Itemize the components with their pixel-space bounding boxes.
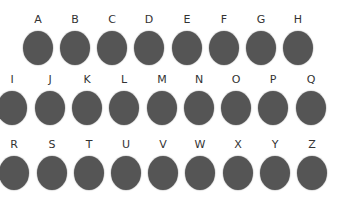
letter-dot-i[interactable]: I — [0, 74, 28, 134]
letter-dot-d[interactable]: D — [133, 14, 165, 74]
circle-icon[interactable] — [246, 31, 276, 65]
circle-icon[interactable] — [221, 91, 251, 125]
circle-icon[interactable] — [148, 156, 178, 190]
letter-dot-n[interactable]: N — [183, 74, 215, 134]
letter-label: H — [294, 14, 302, 26]
circle-icon[interactable] — [0, 156, 29, 190]
circle-icon[interactable] — [258, 91, 288, 125]
letter-label: Y — [272, 139, 279, 151]
letter-label: T — [86, 139, 93, 151]
letter-dot-j[interactable]: J — [34, 74, 66, 134]
letter-dot-q[interactable]: Q — [295, 74, 327, 134]
letter-dot-t[interactable]: T — [73, 139, 105, 199]
circle-icon[interactable] — [37, 156, 67, 190]
letter-dot-o[interactable]: O — [220, 74, 252, 134]
letter-label: I — [10, 74, 13, 86]
circle-icon[interactable] — [35, 91, 65, 125]
letter-label: M — [157, 74, 167, 86]
letter-dot-k[interactable]: K — [71, 74, 103, 134]
letter-label: E — [184, 14, 191, 26]
letter-label: J — [48, 74, 51, 86]
letter-dot-m[interactable]: M — [146, 74, 178, 134]
circle-icon[interactable] — [109, 91, 139, 125]
circle-icon[interactable] — [223, 156, 253, 190]
letter-label: X — [234, 139, 242, 151]
letter-dot-x[interactable]: X — [222, 139, 254, 199]
letter-label: G — [257, 14, 266, 26]
circle-icon[interactable] — [72, 91, 102, 125]
letter-label: B — [71, 14, 79, 26]
letter-label: W — [195, 139, 206, 151]
letter-label: Z — [308, 139, 316, 151]
letter-dot-r[interactable]: R — [0, 139, 30, 199]
circle-icon[interactable] — [60, 31, 90, 65]
circle-icon[interactable] — [0, 91, 27, 125]
letter-label: S — [49, 139, 56, 151]
letter-dot-h[interactable]: H — [282, 14, 314, 74]
letter-label: L — [121, 74, 127, 86]
letter-dot-l[interactable]: L — [108, 74, 140, 134]
circle-icon[interactable] — [134, 31, 164, 65]
letter-dot-y[interactable]: Y — [259, 139, 291, 199]
letter-label: Q — [307, 74, 316, 86]
circle-icon[interactable] — [97, 31, 127, 65]
circle-icon[interactable] — [296, 91, 326, 125]
letter-label: O — [232, 74, 241, 86]
letter-label: C — [108, 14, 116, 26]
letter-dot-c[interactable]: C — [96, 14, 128, 74]
circle-icon[interactable] — [23, 31, 53, 65]
letter-dot-a[interactable]: A — [22, 14, 54, 74]
letter-dot-u[interactable]: U — [110, 139, 142, 199]
letter-label: V — [159, 139, 167, 151]
letter-dot-e[interactable]: E — [171, 14, 203, 74]
letter-label: D — [145, 14, 153, 26]
letter-label: F — [221, 14, 227, 26]
letter-dot-v[interactable]: V — [147, 139, 179, 199]
circle-icon[interactable] — [172, 31, 202, 65]
letter-dot-g[interactable]: G — [245, 14, 277, 74]
letter-dot-z[interactable]: Z — [296, 139, 328, 199]
circle-icon[interactable] — [283, 31, 313, 65]
letter-label: P — [270, 74, 277, 86]
letter-label: K — [83, 74, 90, 86]
letter-dot-b[interactable]: B — [59, 14, 91, 74]
circle-icon[interactable] — [209, 31, 239, 65]
letter-dot-w[interactable]: W — [184, 139, 216, 199]
circle-icon[interactable] — [185, 156, 215, 190]
circle-icon[interactable] — [260, 156, 290, 190]
letter-label: U — [122, 139, 130, 151]
letter-dot-p[interactable]: P — [257, 74, 289, 134]
letter-dot-f[interactable]: F — [208, 14, 240, 74]
circle-icon[interactable] — [184, 91, 214, 125]
circle-icon[interactable] — [111, 156, 141, 190]
letter-label: N — [195, 74, 203, 86]
circle-icon[interactable] — [74, 156, 104, 190]
circle-icon[interactable] — [147, 91, 177, 125]
circle-icon[interactable] — [297, 156, 327, 190]
letter-dot-s[interactable]: S — [36, 139, 68, 199]
letter-label: A — [34, 14, 42, 26]
letter-label: R — [10, 139, 18, 151]
